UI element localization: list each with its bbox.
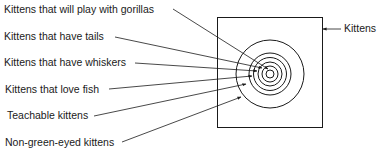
nested-sets-diagram: Kittens that will play with gorillas Kit…	[0, 0, 385, 150]
leader-line-whiskers	[135, 63, 257, 71]
concentric-sets	[236, 40, 304, 108]
label-tails: Kittens that have tails	[4, 30, 104, 42]
leader-line-non-green-eyed	[122, 97, 241, 142]
set-circle-non-green-eyed	[236, 40, 304, 108]
diagram-canvas	[0, 0, 385, 150]
set-circle-gorillas	[266, 70, 274, 78]
label-kittens-universe: Kittens	[344, 22, 376, 34]
leader-line-teachable	[94, 84, 246, 116]
set-circle-tails	[262, 66, 278, 82]
label-love-fish: Kittens that love fish	[5, 83, 99, 95]
label-gorillas: Kittens that will play with gorillas	[4, 3, 154, 15]
universe-square	[218, 18, 323, 128]
label-non-green-eyed: Non-green-eyed kittens	[5, 136, 114, 148]
set-circle-teachable	[249, 53, 291, 95]
label-whiskers: Kittens that have whiskers	[4, 56, 126, 68]
label-teachable: Teachable kittens	[7, 109, 88, 121]
